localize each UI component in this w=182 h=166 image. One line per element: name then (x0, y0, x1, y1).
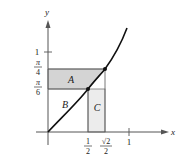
y-tick-pi-over-6: π 6 (34, 78, 42, 97)
svg-text:6: 6 (36, 88, 40, 97)
x-axis-label: x (170, 127, 175, 137)
region-a-label: A (67, 74, 75, 85)
region-b-label: B (62, 99, 68, 110)
region-c-label: C (94, 102, 101, 113)
svg-text:4: 4 (36, 68, 40, 77)
svg-text:π: π (36, 78, 41, 87)
svg-text:π: π (36, 58, 41, 67)
svg-text:2: 2 (86, 147, 90, 156)
y-axis-arrow-icon (46, 20, 51, 28)
point-root2-pi-fourth (103, 67, 107, 71)
svg-text:2: 2 (104, 147, 108, 156)
x-axis-arrow-icon (161, 130, 169, 135)
svg-text:√2: √2 (102, 137, 110, 146)
y-axis-label: y (44, 7, 49, 17)
point-half-pi-sixth (86, 87, 90, 91)
y-tick-1: 1 (35, 47, 40, 57)
x-tick-one-half: 1 2 (84, 137, 92, 156)
x-tick-1: 1 (127, 137, 132, 147)
x-tick-root2-over-2: √2 2 (100, 137, 112, 156)
y-tick-pi-over-4: π 4 (34, 58, 42, 77)
svg-text:1: 1 (86, 137, 90, 146)
arcsine-area-diagram: y x 1 π 4 π 6 1 2 √2 2 1 A B C (0, 0, 182, 166)
